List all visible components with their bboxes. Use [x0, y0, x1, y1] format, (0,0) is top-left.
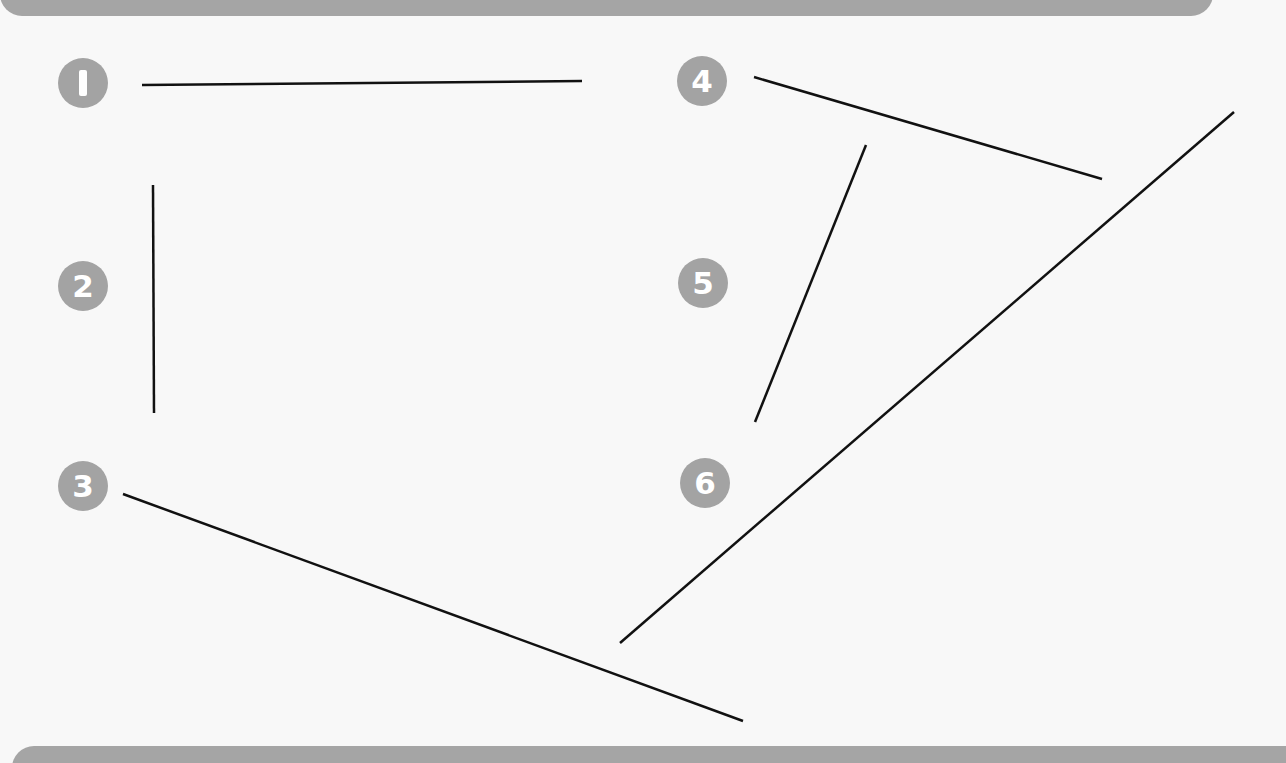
line-near-1	[142, 81, 582, 85]
number-badge-2: 2	[58, 261, 108, 311]
number-badge-1	[58, 58, 108, 108]
line-near-3	[123, 494, 743, 721]
badge-label: 2	[72, 268, 94, 304]
number-badge-6: 6	[680, 458, 730, 508]
line-near-5	[755, 145, 866, 422]
badge-label: 3	[72, 468, 94, 504]
line-near-4	[754, 77, 1102, 179]
line-near-6	[620, 112, 1234, 643]
number-badge-3: 3	[58, 461, 108, 511]
line-near-2	[153, 185, 154, 413]
badge-label: 5	[692, 265, 714, 301]
diagram-canvas: 2 3 4 5 6	[0, 0, 1286, 763]
badge-label: 6	[694, 465, 716, 501]
lines-layer	[0, 0, 1286, 763]
number-badge-5: 5	[678, 258, 728, 308]
number-one-glyph	[79, 70, 87, 96]
badge-label: 4	[691, 63, 713, 99]
number-badge-4: 4	[677, 56, 727, 106]
